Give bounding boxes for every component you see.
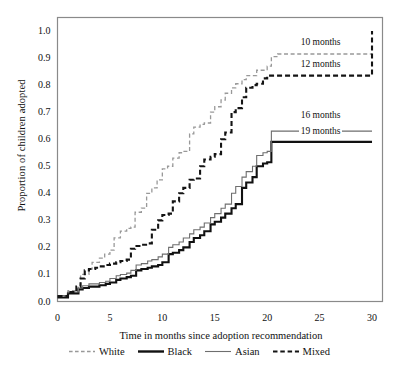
legend-item-mixed: Mixed: [273, 346, 330, 357]
legend-label: Mixed: [303, 346, 330, 357]
plot-area: [0, 0, 399, 369]
legend-label: White: [99, 346, 125, 357]
legend-swatch-white: [69, 348, 95, 355]
series-line-black: [58, 142, 373, 298]
legend-label: Black: [168, 346, 193, 357]
chart-figure: Proportion of children adopted Time in m…: [0, 0, 399, 369]
legend-label: Asian: [235, 346, 260, 357]
legend-swatch-asian: [205, 348, 231, 355]
legend-item-black: Black: [138, 346, 193, 357]
series-line-white: [58, 54, 373, 296]
annotation-10-months: 10 months: [299, 37, 343, 47]
legend-swatch-mixed: [273, 348, 299, 355]
annotation-12-months: 12 months: [299, 59, 343, 69]
legend-swatch-black: [138, 348, 164, 355]
annotation-19-months: 19 months: [299, 126, 343, 136]
legend-item-white: White: [69, 346, 125, 357]
annotation-16-months: 16 months: [299, 110, 343, 120]
legend-item-asian: Asian: [205, 346, 260, 357]
chart-legend: WhiteBlackAsianMixed: [0, 346, 399, 357]
